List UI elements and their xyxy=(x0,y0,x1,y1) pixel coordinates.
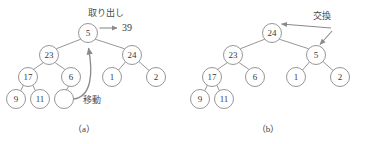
figure-canvas: 5 23 24 17 6 xyxy=(0,0,371,144)
extracted-value: 39 xyxy=(122,22,132,33)
swap-annotation: 交換 xyxy=(282,10,333,45)
node-a-24: 24 xyxy=(123,46,142,65)
node-b-6: 6 xyxy=(246,68,265,87)
node-a-6: 6 xyxy=(62,68,81,87)
move-label: 移動 xyxy=(83,94,101,105)
panel-b-nodes: 24 23 5 17 6 xyxy=(191,24,350,109)
edge-24-1 xyxy=(119,62,126,70)
edge-5-1 xyxy=(303,62,310,70)
node-a-11: 11 xyxy=(31,90,50,109)
edge-24-5 xyxy=(279,39,309,49)
edge-5-24 xyxy=(95,39,125,49)
edge-17-11 xyxy=(33,85,36,91)
edge-24-23 xyxy=(240,39,265,49)
edge-5-23 xyxy=(56,39,81,49)
node-label: 2 xyxy=(154,72,159,82)
node-b-9: 9 xyxy=(191,90,210,109)
edge-17-9 xyxy=(21,85,24,91)
node-label: 24 xyxy=(128,50,138,60)
node-a-2: 2 xyxy=(147,68,166,87)
panel-b: 24 23 5 17 6 xyxy=(191,10,350,134)
edge-17-9 xyxy=(205,85,208,91)
node-label: 17 xyxy=(24,72,34,82)
node-b-root: 24 xyxy=(263,24,282,43)
node-b-17: 17 xyxy=(203,68,222,87)
node-label: 2 xyxy=(338,72,343,82)
node-label: 24 xyxy=(268,28,278,38)
edge-23-6 xyxy=(55,63,65,69)
heap-figure: 5 23 24 17 6 xyxy=(0,0,371,144)
edge-23-6 xyxy=(239,63,249,69)
caption-a: （a） xyxy=(73,124,95,134)
extract-label: 取り出し xyxy=(88,7,124,18)
node-circle xyxy=(55,90,74,109)
node-a-root: 5 xyxy=(79,24,98,43)
node-label: 1 xyxy=(294,72,299,82)
node-label: 23 xyxy=(229,50,239,60)
swap-arrow-to-child-icon xyxy=(320,31,332,45)
edge-17-11 xyxy=(217,85,220,91)
swap-arrow-to-root-icon xyxy=(282,24,332,28)
node-label: 9 xyxy=(198,94,203,104)
panel-a: 5 23 24 17 6 xyxy=(7,7,166,134)
edge-24-2 xyxy=(139,62,149,71)
node-label: 9 xyxy=(14,94,19,104)
node-b-5: 5 xyxy=(307,46,326,65)
node-b-2: 2 xyxy=(331,68,350,87)
node-a-1: 1 xyxy=(103,68,122,87)
node-label: 23 xyxy=(45,50,55,60)
node-a-9: 9 xyxy=(7,90,26,109)
node-a-17: 17 xyxy=(19,68,38,87)
edge-5-2 xyxy=(323,62,333,71)
node-label: 6 xyxy=(69,72,74,82)
swap-label: 交換 xyxy=(313,10,331,21)
node-label: 17 xyxy=(208,72,218,82)
node-label: 1 xyxy=(110,72,115,82)
edge-23-17 xyxy=(34,63,44,70)
node-label: 11 xyxy=(220,94,229,104)
node-b-23: 23 xyxy=(224,46,243,65)
node-a-23: 23 xyxy=(40,46,59,65)
edge-23-17 xyxy=(218,63,228,70)
node-b-1: 1 xyxy=(287,68,306,87)
node-b-11: 11 xyxy=(215,90,234,109)
node-label: 5 xyxy=(86,28,91,38)
node-label: 6 xyxy=(253,72,258,82)
node-label: 5 xyxy=(314,50,319,60)
caption-b: （b） xyxy=(257,124,280,134)
node-a-empty-slot xyxy=(55,90,74,109)
node-label: 11 xyxy=(36,94,45,104)
